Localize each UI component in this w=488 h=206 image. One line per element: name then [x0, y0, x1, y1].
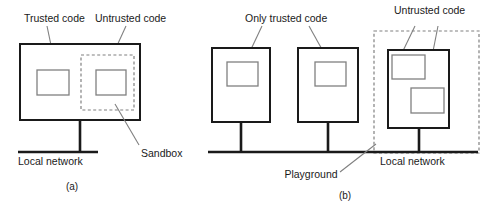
label-sandbox: Sandbox	[141, 147, 183, 159]
caption-b: (b)	[339, 190, 351, 201]
label-trusted-code: Trusted code	[24, 12, 85, 24]
figure-container: Trusted code Untrusted code Sandbox Loca…	[0, 0, 488, 206]
trusted-code-box	[37, 70, 69, 95]
label-playground: Playground	[284, 168, 337, 180]
label-only-trusted-code: Only trusted code	[245, 12, 327, 24]
untrusted-code-box	[96, 70, 126, 95]
untrusted-code-box-lower	[411, 88, 444, 113]
caption-a: (a)	[66, 181, 78, 192]
label-untrusted-code-a: Untrusted code	[95, 12, 166, 24]
trusted-code-box-b2	[315, 62, 346, 86]
panel-a: Trusted code Untrusted code Sandbox Loca…	[18, 12, 183, 192]
label-local-network-b: Local network	[380, 155, 446, 167]
label-local-network-a: Local network	[18, 155, 84, 167]
leader-playground	[340, 144, 376, 172]
label-untrusted-code-b: Untrusted code	[394, 4, 465, 16]
panel-b: Only trusted code Untrusted code Playgro…	[208, 4, 479, 201]
untrusted-code-box-upper	[392, 55, 425, 79]
trusted-code-box-b1	[227, 62, 258, 86]
diagram-canvas: Trusted code Untrusted code Sandbox Loca…	[0, 0, 488, 206]
